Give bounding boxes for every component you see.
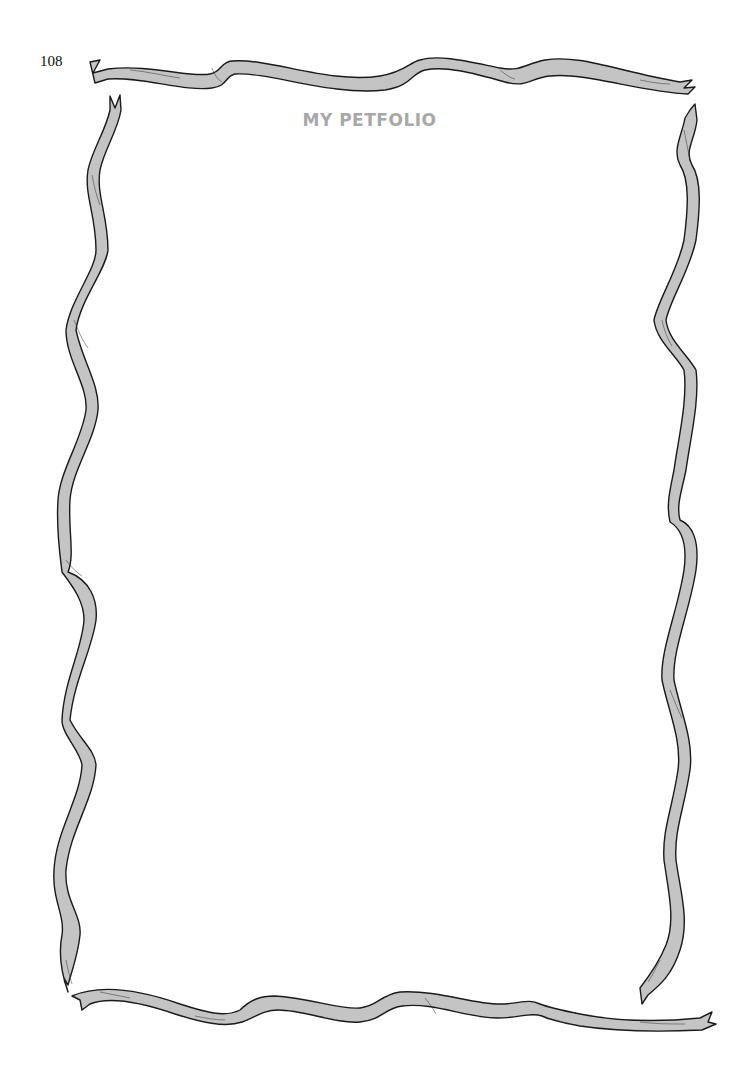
top-ribbon [90, 58, 695, 94]
bottom-ribbon [72, 990, 716, 1032]
ribbon-frame [0, 0, 739, 1075]
left-ribbon [54, 95, 121, 992]
right-ribbon [640, 104, 699, 1004]
